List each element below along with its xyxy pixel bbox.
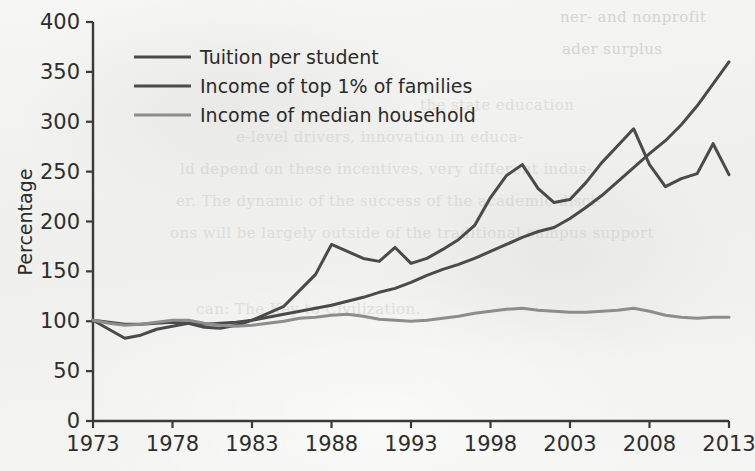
- x-tick-label: 1993: [384, 432, 437, 456]
- x-axis-ticks: 197319781983198819931998200320082013: [66, 421, 755, 456]
- y-tick-label: 100: [40, 309, 80, 333]
- y-axis-title: Percentage: [14, 169, 36, 276]
- x-tick-label: 1973: [66, 432, 119, 456]
- y-tick-label: 150: [40, 259, 80, 283]
- y-tick-label: 400: [40, 10, 80, 34]
- x-tick-label: 1983: [225, 432, 278, 456]
- x-tick-label: 2003: [543, 432, 596, 456]
- y-tick-label: 300: [40, 110, 80, 134]
- y-tick-label: 0: [67, 409, 80, 433]
- y-tick-label: 50: [53, 359, 80, 383]
- y-tick-label: 200: [40, 210, 80, 234]
- x-tick-label: 2013: [702, 432, 755, 456]
- chart-legend: Tuition per studentIncome of top 1% of f…: [134, 46, 476, 126]
- y-tick-label: 350: [40, 60, 80, 84]
- x-tick-label: 1998: [464, 432, 517, 456]
- y-tick-label: 250: [40, 160, 80, 184]
- x-tick-label: 1978: [146, 432, 199, 456]
- x-tick-label: 1988: [305, 432, 358, 456]
- series-line-0: [93, 62, 729, 324]
- y-axis-ticks: 050100150200250300350400: [40, 10, 93, 433]
- legend-label-2: Income of median household: [200, 104, 476, 126]
- legend-label-1: Income of top 1% of families: [200, 75, 472, 97]
- x-tick-label: 2008: [623, 432, 676, 456]
- line-chart: 050100150200250300350400 197319781983198…: [0, 0, 755, 471]
- chart-svg: 050100150200250300350400 197319781983198…: [0, 0, 755, 471]
- legend-label-0: Tuition per student: [199, 46, 379, 68]
